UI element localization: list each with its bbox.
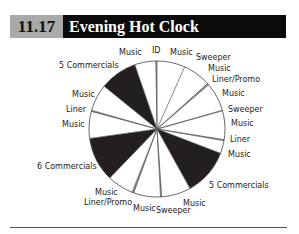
slice-label: Music	[208, 64, 231, 73]
hot-clock-pie-chart: MusicIDMusicSweeperMusicLiner/PromoMusic…	[0, 0, 299, 234]
slice-label: Music	[170, 48, 193, 57]
slice-label: Music	[119, 48, 142, 57]
slice-label: Music	[222, 89, 245, 98]
slice-label: Music	[133, 204, 156, 213]
slice-label: Music	[228, 150, 251, 159]
slice-label: Music	[231, 119, 254, 128]
slice-label: Music	[95, 188, 118, 197]
slice-label: 6 Commercials	[37, 162, 97, 171]
slice-label: ID	[152, 46, 161, 55]
slice-label: Liner	[230, 135, 251, 144]
slice-label: 5 Commercials	[209, 181, 269, 190]
bottom-rule	[10, 227, 287, 228]
slice-label: Liner	[66, 105, 87, 114]
slice-label: Liner/Promo	[84, 198, 132, 207]
slice-label: Music	[62, 120, 85, 129]
slice-label: Liner/Promo	[212, 75, 260, 84]
slice-label: Sweeper	[196, 53, 231, 62]
slice-label: Sweeper	[228, 105, 263, 114]
slice-label: 5 Commercials	[59, 61, 119, 70]
slice-label: Music	[72, 90, 95, 99]
slice-label: Sweeper	[156, 206, 191, 215]
